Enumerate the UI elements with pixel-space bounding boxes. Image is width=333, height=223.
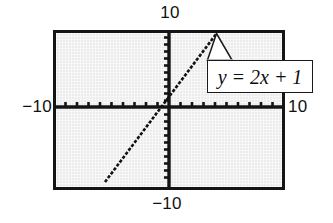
- graph-figure: 10 −10 −10 10 y = 2x + 1: [0, 0, 333, 223]
- equation-callout: y = 2x + 1: [207, 60, 313, 93]
- callout-tail: [208, 34, 233, 61]
- callout-leader: [0, 0, 333, 223]
- equation-text: y = 2x + 1: [218, 67, 303, 87]
